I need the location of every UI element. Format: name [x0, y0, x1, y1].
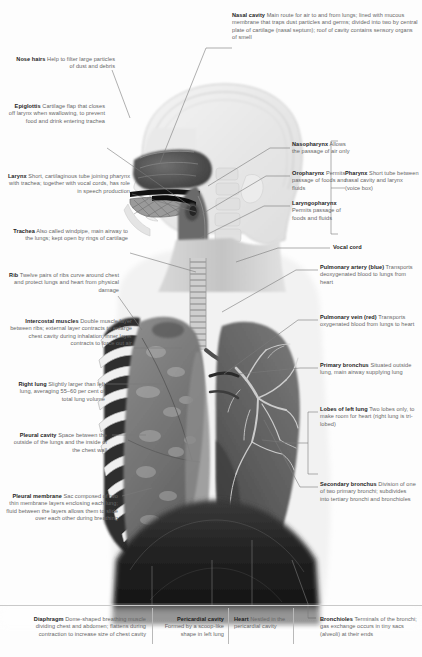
label-secondary-bronchus-title: Secondary bronchus	[320, 481, 377, 487]
label-pleural-cavity: Pleural cavity Space between the outside…	[8, 432, 107, 454]
respiratory-system-diagram-page: Nose hairs Help to filter large particle…	[0, 0, 422, 657]
label-primary-bronchus-title: Primary bronchus	[320, 362, 369, 368]
label-bronchioles: Bronchioles Terminals of the bronchi; ga…	[320, 616, 418, 638]
label-vocal-cord-title: Vocal cord	[333, 244, 362, 250]
label-intercostal-muscles: Intercostal muscles Double muscle layer …	[5, 318, 132, 348]
label-trachea-title: Trachea	[13, 228, 35, 234]
label-nose-hairs-body: Help to filter large particles of dust a…	[47, 56, 115, 69]
label-pharynx-title: Pharynx	[345, 170, 367, 176]
label-diaphragm: Diaphragm Dome-shaped breathing muscle d…	[24, 616, 146, 638]
label-pleural-membrane-title: Pleural membrane	[12, 493, 61, 499]
bottom-column-divider-2	[228, 608, 229, 644]
label-pericardial-cavity-body: Formed by a scoop-like shape in left lun…	[165, 623, 224, 636]
label-rib-title: Rib	[9, 272, 18, 278]
label-bronchioles-title: Bronchioles	[320, 616, 353, 622]
label-laryngopharynx: Laryngopharynx Permits passage of foods …	[292, 200, 354, 222]
label-lobes-of-left-lung-title: Lobes of left lung	[320, 406, 368, 412]
label-trachea-body: Also called windpipe, main airway to the…	[25, 228, 128, 241]
label-pharynx: Pharynx Short tube between nasal cavity …	[345, 170, 419, 192]
label-larynx-title: Larynx	[8, 173, 27, 179]
label-nasal-cavity: Nasal cavity Main route for air to and f…	[232, 12, 418, 42]
bottom-column-divider-3	[293, 608, 294, 644]
label-oropharynx-title: Oropharynx	[292, 170, 324, 176]
label-laryngopharynx-title: Laryngopharynx	[292, 200, 337, 206]
label-nasal-cavity-title: Nasal cavity	[232, 12, 265, 18]
label-pericardial-cavity-title: Pericardial cavity	[177, 616, 224, 622]
label-right-lung: Right lung Slightly larger than left lun…	[10, 381, 105, 403]
label-larynx: Larynx Short, cartilaginous tube joining…	[5, 173, 130, 195]
label-pleural-membrane: Pleural membrane Sac composed of two thi…	[5, 493, 118, 523]
label-diaphragm-title: Diaphragm	[34, 616, 64, 622]
label-pulmonary-artery: Pulmonary artery (blue) Transports deoxy…	[320, 264, 416, 286]
label-larynx-body: Short, cartilaginous tube joining pharyn…	[9, 173, 130, 194]
label-pulmonary-artery-title: Pulmonary artery (blue)	[320, 264, 384, 270]
label-epiglottis-title: Epiglottis	[15, 103, 41, 109]
label-trachea: Trachea Also called windpipe, main airwa…	[8, 228, 128, 243]
label-primary-bronchus: Primary bronchus Situated outside lung, …	[320, 362, 416, 377]
label-heart: Heart Nestled in the pericardial cavity	[234, 616, 292, 631]
label-nose-hairs-title: Nose hairs	[16, 56, 45, 62]
label-laryngopharynx-body: Permits passage of foods and fluids	[292, 207, 341, 220]
label-intercostal-muscles-title: Intercostal muscles	[25, 318, 78, 324]
label-pleural-cavity-title: Pleural cavity	[20, 432, 57, 438]
label-nasopharynx: Nasopharynx Allows the passage of air on…	[292, 141, 352, 156]
label-secondary-bronchus: Secondary bronchus Division of one of tw…	[320, 481, 416, 503]
label-rib: Rib Twelve pairs of ribs curve around ch…	[5, 272, 119, 294]
label-rib-body: Twelve pairs of ribs curve around chest …	[14, 272, 119, 293]
label-pulmonary-vein: Pulmonary vein (red) Transports oxygenat…	[320, 314, 416, 329]
label-lobes-of-left-lung: Lobes of left lung Two lobes only, to ma…	[320, 406, 418, 428]
label-nose-hairs: Nose hairs Help to filter large particle…	[10, 56, 115, 71]
bottom-column-divider-1	[152, 608, 153, 644]
label-vocal-cord: Vocal cord	[333, 244, 413, 251]
label-oropharynx: Oropharynx Permits passage of foods and …	[292, 170, 352, 192]
label-epiglottis: Epiglottis Cartilage flap that closes of…	[8, 103, 105, 125]
label-pericardial-cavity: Pericardial cavity Formed by a scoop-lik…	[158, 616, 224, 638]
label-right-lung-title: Right lung	[18, 381, 46, 387]
bottom-strip-divider	[0, 605, 422, 606]
label-pulmonary-vein-title: Pulmonary vein (red)	[320, 314, 377, 320]
label-heart-title: Heart	[234, 616, 249, 622]
label-nasopharynx-title: Nasopharynx	[292, 141, 328, 147]
